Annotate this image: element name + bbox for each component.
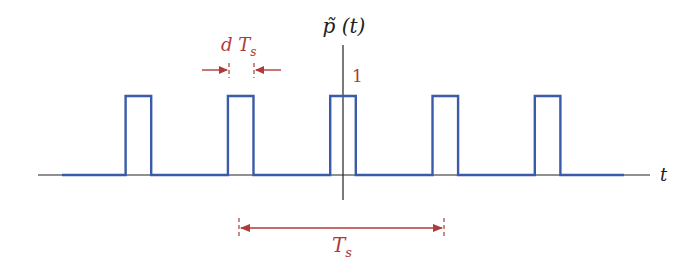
pulse-width-annotation: d Ts (202, 34, 281, 78)
amplitude-label: 1 (352, 66, 363, 86)
pulse-width-label: d Ts (221, 34, 256, 59)
period-annotation: Ts (239, 218, 444, 260)
x-axis-label: t (660, 164, 668, 185)
period-label: Ts (332, 233, 352, 260)
period-subscript: s (345, 245, 352, 260)
y-axis-label: p̃ (t) (323, 14, 366, 38)
pulse-train-diagram: p̃ (t) t 1 d Ts Ts (0, 0, 700, 273)
pulse-width-subscript: s (250, 45, 256, 59)
